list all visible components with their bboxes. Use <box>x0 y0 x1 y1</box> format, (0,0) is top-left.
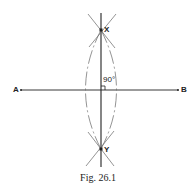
figure-caption: Fig. 26.1 <box>0 172 196 183</box>
label-y: Y <box>104 146 109 154</box>
label-b: B <box>181 86 187 94</box>
angle-label: 90° <box>103 76 115 84</box>
label-x: X <box>104 26 109 34</box>
point-y-marker <box>100 148 103 151</box>
label-a: A <box>13 86 19 94</box>
right-angle-mark <box>101 86 105 90</box>
perpendicular-bisector-diagram <box>0 0 196 188</box>
left-arc <box>86 30 102 149</box>
point-x-marker <box>100 29 103 32</box>
point-b-dot <box>177 89 179 91</box>
point-a-dot <box>20 89 22 91</box>
